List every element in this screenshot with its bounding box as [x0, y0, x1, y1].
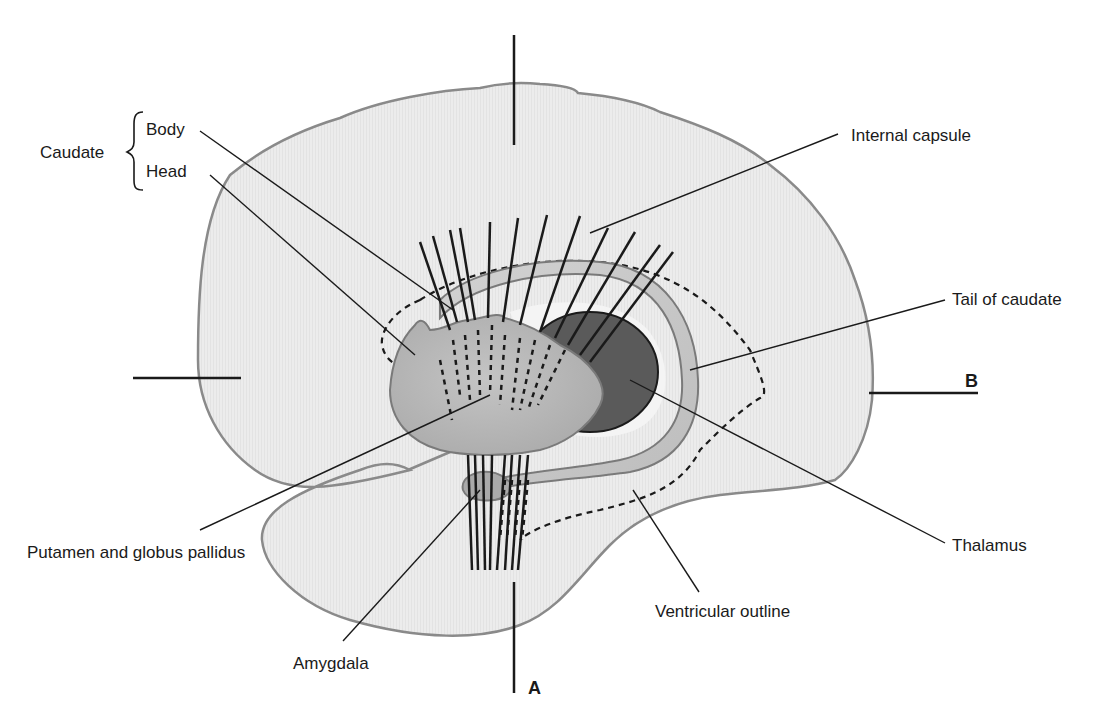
label-putamen-globus-pallidus: Putamen and globus pallidus [27, 544, 245, 561]
label-tail-of-caudate: Tail of caudate [952, 291, 1062, 308]
label-internal-capsule: Internal capsule [851, 127, 971, 144]
label-head: Head [146, 163, 187, 180]
label-section-b: B [965, 372, 978, 390]
label-thalamus: Thalamus [952, 537, 1027, 554]
label-section-a: A [528, 679, 541, 697]
label-ventricular-outline: Ventricular outline [655, 603, 790, 620]
label-amygdala: Amygdala [293, 655, 369, 672]
brain-diagram [0, 0, 1110, 721]
caudate-brace [127, 112, 143, 190]
label-body: Body [146, 121, 185, 138]
label-caudate: Caudate [40, 144, 104, 161]
